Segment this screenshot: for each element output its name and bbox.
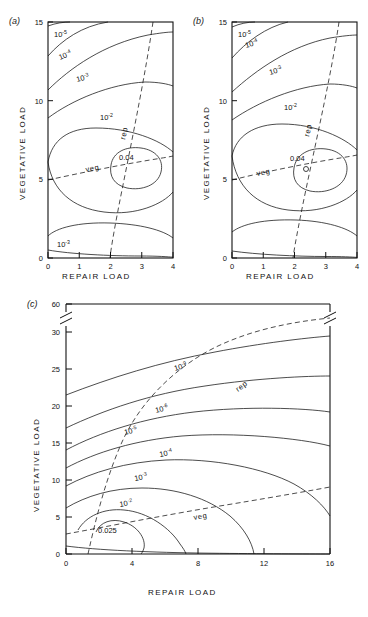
panel-c-xtick-4: 4 xyxy=(130,559,134,568)
panel-a-label-1e-5: 10-5 xyxy=(54,29,67,39)
panel-a-ytick-10: 10 xyxy=(35,97,43,106)
panel-b-iso-rep xyxy=(293,22,339,258)
panel-a-iso-label-veg: veg xyxy=(85,162,100,173)
panel-a-xtick-2: 2 xyxy=(108,262,112,271)
panel-c-xtick-12: 12 xyxy=(260,559,268,568)
panel-b-ytick-0: 0 xyxy=(223,254,227,263)
panel-c-xtick-0: 0 xyxy=(64,559,68,568)
panel-c-y-ticks: 0 5 10 15 20 25 30 60 xyxy=(52,300,72,559)
panel-b-label-004: 0.04 xyxy=(290,154,305,163)
panel-c-ytick-15: 15 xyxy=(52,439,60,448)
panel-b-equilibrium-marker xyxy=(304,167,309,172)
panel-c-x-ticks: 0 4 8 12 16 xyxy=(64,548,334,568)
panel-c-label-1e-9: 10-9 xyxy=(173,360,188,373)
panel-b-iso-label-veg: veg xyxy=(256,166,271,177)
panel-c-iso-label-veg: veg xyxy=(193,511,208,522)
panel-c-ytick-5: 5 xyxy=(56,513,60,522)
panel-a-label-004: 0.04 xyxy=(119,153,134,162)
panel-b-iso-label-rep: rep xyxy=(302,123,313,137)
panel-a-xtick-4: 4 xyxy=(171,262,175,271)
panel-c-label-1e-3: 10-3 xyxy=(133,470,148,482)
panel-b-contours xyxy=(232,22,357,257)
panel-c-iso-label-rep: rep xyxy=(234,379,250,394)
panel-a-xtick-0: 0 xyxy=(46,262,50,271)
panel-b-ytick-10: 10 xyxy=(219,97,227,106)
panel-b-xtick-1: 1 xyxy=(261,262,265,271)
panel-b-plot: 0 5 10 15 0 1 2 3 4 xyxy=(184,0,368,282)
panel-b-frame xyxy=(232,22,357,258)
panel-a-label-1e-4: 10-4 xyxy=(57,48,73,62)
panel-a-label-1e-3-bottom: 10-3 xyxy=(57,239,70,249)
panel-a-ytick-5: 5 xyxy=(39,175,43,184)
panel-c-ytick-25: 25 xyxy=(52,365,60,374)
panel-c-xtick-8: 8 xyxy=(196,559,200,568)
panel-c-axis-break-left xyxy=(60,312,72,324)
panel-a-ytick-15: 15 xyxy=(35,18,43,27)
panel-b-ytick-15: 15 xyxy=(219,18,227,27)
panel-c-ytick-20: 20 xyxy=(52,402,60,411)
panel-c: (c) VEGETATIVE LOAD REPAIR LOAD xyxy=(0,282,368,617)
panel-c-ytick-0: 0 xyxy=(56,550,60,559)
panel-b-label-1e-5: 10-5 xyxy=(238,29,251,39)
panel-a-x-ticks: 0 1 2 3 4 xyxy=(46,252,175,271)
panel-a-xtick-3: 3 xyxy=(140,262,144,271)
panel-c-xtick-16: 16 xyxy=(326,559,334,568)
panel-c-label-1e-2: 10-2 xyxy=(119,497,134,509)
panel-c-ytick-30: 30 xyxy=(52,328,60,337)
panel-b-label-1e-3: 10-3 xyxy=(268,64,283,77)
panel-b-label-1e-2: 10-2 xyxy=(284,102,297,112)
panel-c-isocline-labels: rep veg xyxy=(193,379,250,522)
panel-a-ytick-0: 0 xyxy=(39,254,43,263)
panel-b-x-ticks: 0 1 2 3 4 xyxy=(230,252,359,271)
panel-b-xtick-3: 3 xyxy=(324,262,328,271)
panel-c-ytick-10: 10 xyxy=(52,476,60,485)
panel-a-iso-label-rep: rep xyxy=(118,126,129,140)
panel-b-xtick-4: 4 xyxy=(355,262,359,271)
panel-a-label-1e-2: 10-2 xyxy=(100,112,113,122)
panel-a-plot: 0 5 10 15 0 1 2 3 4 xyxy=(0,0,184,282)
panel-b-xtick-0: 0 xyxy=(230,262,234,271)
panel-a-label-1e-3: 10-3 xyxy=(75,71,90,84)
panel-a-iso-rep xyxy=(110,22,153,258)
panel-c-plot: 0 5 10 15 20 25 30 60 0 4 8 12 16 xyxy=(0,282,368,617)
panel-c-contour-labels: 10-9 10-6 10-5 10-4 10-3 10-2 0.025 xyxy=(98,360,188,535)
panel-a-xtick-1: 1 xyxy=(77,262,81,271)
panel-c-label-1e-6: 10-6 xyxy=(154,402,169,415)
panel-c-ytick-60: 60 xyxy=(52,300,60,309)
panel-b-y-ticks: 0 5 10 15 xyxy=(219,18,237,263)
panel-b: (b) VEGETATIVE LOAD REPAIR LOAD 0 5 10 1… xyxy=(184,0,368,282)
panel-c-label-1e-4: 10-4 xyxy=(158,446,173,458)
panel-a: (a) VEGETATIVE LOAD REPAIR LOAD 0 5 10 1… xyxy=(0,0,184,282)
panel-b-ytick-5: 5 xyxy=(223,175,227,184)
panel-b-isoclines xyxy=(232,22,357,258)
panel-c-label-0025: 0.025 xyxy=(98,526,117,535)
panel-b-xtick-2: 2 xyxy=(292,262,296,271)
panel-a-y-ticks: 0 5 10 15 xyxy=(35,18,53,263)
